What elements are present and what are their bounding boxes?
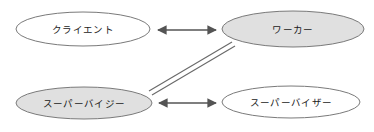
diagram-svg: クライエント ワーカー スーパーバイジー スーパーバイザー xyxy=(0,0,374,132)
connector-supervisee-worker xyxy=(149,42,235,95)
connector-supervisee-worker-line-b xyxy=(149,42,232,91)
node-supervisee[interactable]: スーパーバイジー xyxy=(16,87,152,119)
node-supervisor-label: スーパーバイザー xyxy=(250,97,332,108)
diagram-canvas: クライエント ワーカー スーパーバイジー スーパーバイザー xyxy=(0,0,374,132)
connector-supervisee-worker-line-a xyxy=(152,46,235,95)
node-client-label: クライエント xyxy=(52,24,114,35)
node-worker-label: ワーカー xyxy=(272,24,313,35)
node-worker[interactable]: ワーカー xyxy=(222,11,364,47)
node-client[interactable]: クライエント xyxy=(16,12,150,46)
node-supervisee-label: スーパーバイジー xyxy=(43,98,125,109)
node-supervisor[interactable]: スーパーバイザー xyxy=(222,86,360,118)
